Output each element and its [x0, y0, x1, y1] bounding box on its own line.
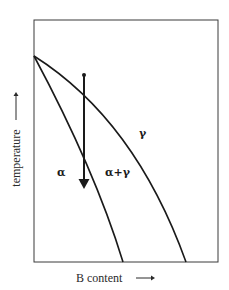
x-axis-label: B content	[76, 271, 123, 285]
arrow-down-icon	[79, 179, 90, 189]
right-arrow-icon	[151, 276, 155, 281]
x-axis-label-group: B content	[76, 271, 155, 285]
alpha-region-label: α	[57, 166, 66, 179]
y-axis-label-group: temperature	[9, 92, 23, 187]
alpha-gamma-region-label: α+γ	[105, 166, 131, 179]
phase-diagram: γ α α+γ temperature B content	[0, 0, 229, 290]
gamma-region-label: γ	[139, 127, 147, 140]
alpha-boundary-curve	[34, 56, 123, 262]
plot-frame	[34, 20, 218, 262]
y-axis-label: temperature	[9, 129, 23, 186]
gamma-boundary-curve	[34, 56, 186, 262]
up-arrow-icon	[14, 92, 19, 96]
cooling-arrow	[79, 73, 90, 189]
